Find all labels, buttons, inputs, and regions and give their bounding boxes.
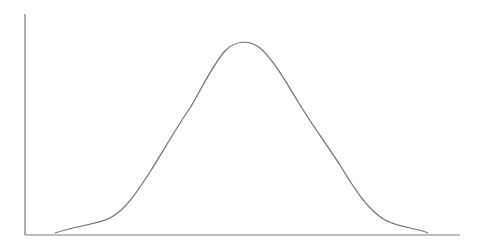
density-curve — [55, 42, 428, 233]
bell-curve-chart — [0, 0, 480, 250]
